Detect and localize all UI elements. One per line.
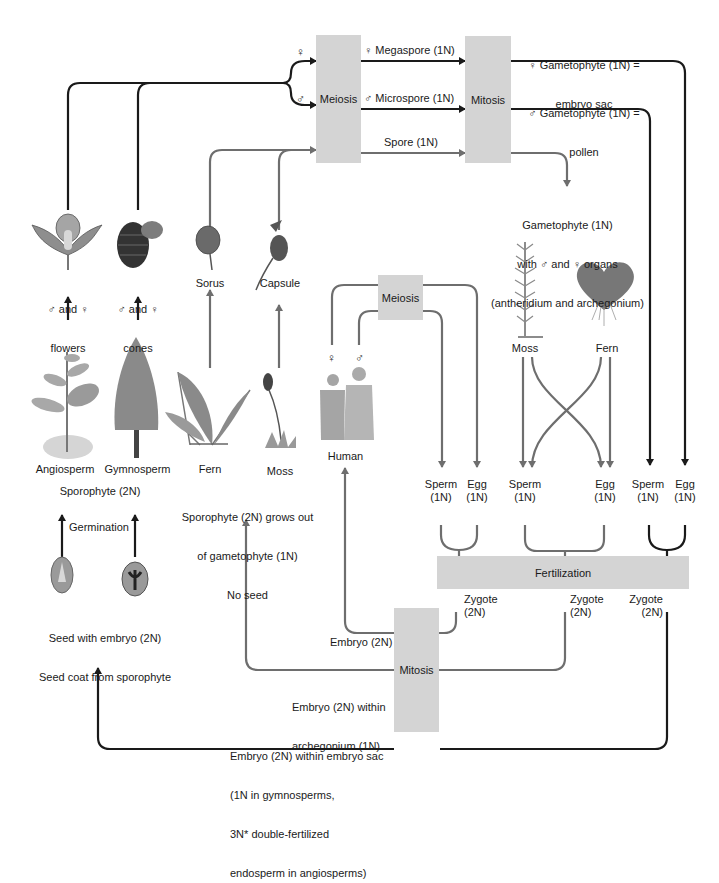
- germination-label: Germination: [69, 521, 129, 534]
- gymnosperm-seed-illustration: [122, 562, 148, 596]
- microspore-label: ♂ Microspore (1N): [364, 92, 454, 105]
- spore-label: Spore (1N): [384, 136, 438, 149]
- fern-moss-sporophyte-note: Sporophyte (2N) grows out of gametophyte…: [170, 485, 325, 615]
- embryo-sac-label: Embryo (2N) within embryo sac (1N in gym…: [230, 724, 383, 883]
- female-symbol-human: ♀: [327, 352, 336, 364]
- meiosis-box-top: Meiosis: [316, 35, 361, 163]
- male-symbol-human: ♂: [355, 352, 364, 364]
- flowers-label: ♂ and ♀ flowers: [33, 277, 103, 368]
- angiosperm-seed-illustration: [51, 557, 73, 593]
- egg-label-human: Egg(1N): [462, 478, 492, 504]
- egg-label-seed-plant: Egg(1N): [670, 478, 700, 504]
- sorus-illustration: [196, 226, 220, 270]
- capsule-label: Capsule: [250, 277, 310, 290]
- moss-sporophyte-illustration: [263, 373, 296, 448]
- moss-label: Moss: [260, 465, 300, 478]
- zygote-label-seed-plant: Zygote(2N): [618, 593, 663, 619]
- fern-gametophyte-label: Fern: [590, 342, 624, 355]
- sperm-label-moss-fern: Sperm(1N): [508, 478, 542, 504]
- mitosis-box-bottom: Mitosis: [394, 608, 439, 732]
- gametophyte-organs-label: Gametophyte (1N) with ♂ and ♀ organs (an…: [480, 193, 655, 323]
- human-label: Human: [318, 450, 373, 463]
- fertilization-box: Fertilization: [437, 556, 689, 589]
- sorus-label: Sorus: [185, 277, 235, 290]
- mitosis-box-top: Mitosis: [465, 36, 511, 163]
- megaspore-label: ♀ Megaspore (1N): [364, 44, 455, 57]
- human-illustration: [320, 367, 374, 440]
- moss-gametophyte-label: Moss: [508, 342, 542, 355]
- seed-label: Seed with embryo (2N) Seed coat from spo…: [20, 606, 190, 697]
- egg-label-moss-fern: Egg(1N): [590, 478, 620, 504]
- male-gametophyte-label: ♂ Gametophyte (1N) = pollen: [514, 81, 654, 172]
- female-symbol: ♀: [296, 46, 305, 58]
- gymnosperm-label: Gymnosperm: [100, 463, 175, 476]
- zygote-label-moss-fern: Zygote(2N): [570, 593, 604, 619]
- flower-illustration: [32, 214, 102, 270]
- cone-illustration: [117, 221, 163, 268]
- sperm-label-human: Sperm(1N): [424, 478, 458, 504]
- sporophyte-2n-label: Sporophyte (2N): [45, 485, 155, 498]
- male-symbol: ♂: [296, 93, 305, 105]
- embryo-human-label: Embryo (2N): [330, 636, 392, 649]
- fern-label: Fern: [190, 463, 230, 476]
- zygote-label-human: Zygote(2N): [464, 593, 498, 619]
- sperm-label-seed-plant: Sperm(1N): [631, 478, 665, 504]
- angiosperm-label: Angiosperm: [30, 463, 100, 476]
- meiosis-box-human: Meiosis: [378, 275, 423, 320]
- cones-label: ♂ and ♀ cones: [103, 277, 173, 368]
- angiosperm-illustration: [30, 352, 103, 459]
- fern-sporophyte-illustration: [165, 372, 250, 445]
